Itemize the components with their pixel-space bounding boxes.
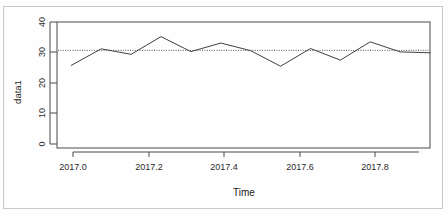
y-tick-label-10: 10	[37, 108, 47, 118]
y-axis-title: data1	[12, 80, 23, 104]
plot-box	[57, 22, 430, 148]
x-axis-title: Time	[233, 187, 255, 198]
x-tick-label-2017-8: 2017.8	[361, 162, 389, 172]
y-axis: 40 30 20 10 0	[37, 17, 57, 147]
x-tick-label-2017-4: 2017.4	[210, 162, 238, 172]
screenshot-root: 40 30 20 10 0 2017.0 2017.2 2017.4 2017.…	[0, 0, 448, 215]
x-tick-label-2017-6: 2017.6	[286, 162, 314, 172]
y-tick-label-20: 20	[37, 78, 47, 88]
data-series-line	[71, 37, 430, 67]
x-tick-label-2017-0: 2017.0	[59, 162, 87, 172]
y-tick-label-30: 30	[37, 47, 47, 57]
r-timeseries-plot: 40 30 20 10 0 2017.0 2017.2 2017.4 2017.…	[0, 0, 448, 215]
y-tick-label-0: 0	[37, 141, 47, 146]
plot-svg: 40 30 20 10 0 2017.0 2017.2 2017.4 2017.…	[0, 0, 448, 215]
x-axis: 2017.0 2017.2 2017.4 2017.6 2017.8	[59, 152, 419, 172]
y-tick-label-40: 40	[37, 17, 47, 27]
x-tick-label-2017-2: 2017.2	[135, 162, 163, 172]
